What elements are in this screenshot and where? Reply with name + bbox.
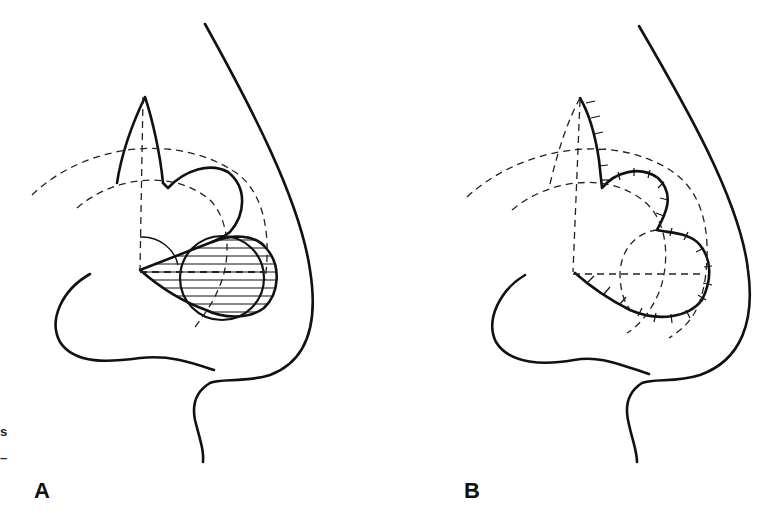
defect-circle-dashed-b (620, 230, 657, 312)
suture-marks (586, 101, 712, 323)
figure-canvas (0, 0, 768, 519)
inner-pivot-arc-b (512, 182, 666, 333)
defect-circle (180, 236, 264, 320)
panel-label-b: B (464, 478, 480, 504)
inner-pivot-arc (77, 180, 227, 330)
vertical-axis-dashed (140, 97, 143, 270)
outer-pivot-arc-b (467, 149, 707, 338)
vertical-axis-dashed-b (573, 100, 580, 272)
nose-profile-line-b (627, 26, 750, 462)
margin-mark-s: s (0, 424, 7, 439)
panel-label-a: A (34, 478, 50, 504)
margin-mark-dash: – (0, 450, 7, 465)
panel-a-drawing (32, 24, 313, 462)
sutured-flap-outline (575, 98, 709, 317)
alar-rim-line-b (492, 275, 649, 374)
outer-pivot-arc (32, 148, 267, 280)
angle-arc (140, 237, 178, 265)
defect-hatching (130, 240, 290, 312)
first-lobe-flap (117, 97, 242, 242)
original-lobe-outline-dashed (550, 98, 580, 184)
panel-b-drawing (467, 26, 750, 462)
